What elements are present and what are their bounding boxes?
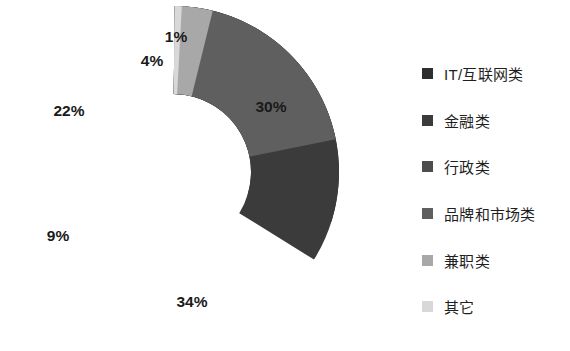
legend-item-label: 其它 xyxy=(444,296,475,317)
legend-item-label: 行政类 xyxy=(444,156,490,177)
legend-swatch-icon xyxy=(422,161,433,172)
donut-chart-svg: 30%34%9%22%4%1% xyxy=(0,0,380,351)
donut-slice-label: 4% xyxy=(141,52,164,69)
donut-chart-figure: 30%34%9%22%4%1% IT/互联网类金融类行政类品牌和市场类兼职类其它 xyxy=(0,0,570,351)
legend-item[interactable]: 金融类 xyxy=(422,97,570,144)
legend-item-label: 兼职类 xyxy=(444,250,490,271)
legend-item[interactable]: 其它 xyxy=(422,283,570,330)
donut-slice-label: 30% xyxy=(255,98,286,115)
legend-item-label: IT/互联网类 xyxy=(444,63,524,84)
legend-swatch-icon xyxy=(422,255,433,266)
donut-slices-group xyxy=(174,6,339,260)
legend-item[interactable]: 行政类 xyxy=(422,143,570,190)
legend-swatch-icon xyxy=(422,301,433,312)
legend-swatch-icon xyxy=(422,115,433,126)
donut-slice-label: 22% xyxy=(53,102,84,119)
donut-slice-label: 9% xyxy=(47,227,70,244)
legend-swatch-icon xyxy=(422,68,433,79)
legend-item[interactable]: 品牌和市场类 xyxy=(422,190,570,237)
legend-item[interactable]: IT/互联网类 xyxy=(422,50,570,97)
donut-chart-plot: 30%34%9%22%4%1% xyxy=(0,0,380,351)
donut-slice-label: 1% xyxy=(165,28,188,45)
legend-swatch-icon xyxy=(422,208,433,219)
chart-legend: IT/互联网类金融类行政类品牌和市场类兼职类其它 xyxy=(422,50,570,330)
legend-item-label: 金融类 xyxy=(444,110,490,131)
donut-slice-label: 34% xyxy=(176,293,207,310)
legend-item-label: 品牌和市场类 xyxy=(444,203,536,224)
legend-item[interactable]: 兼职类 xyxy=(422,237,570,284)
